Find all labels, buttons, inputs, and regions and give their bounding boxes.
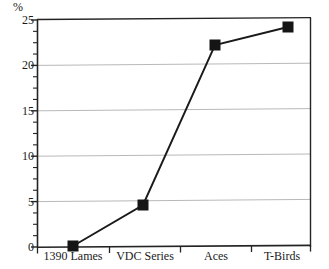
data-point-markers [68, 22, 294, 252]
gridlines [37, 63, 311, 201]
y-axis-minor-ticks [33, 31, 37, 235]
line-chart: % 25 20 15 10 5 0 [0, 0, 329, 269]
axis-frame [37, 18, 311, 248]
x-tick-label-1390-lames: 1390 Lames [44, 250, 103, 263]
x-tick-label-vdc-series: VDC Series [116, 250, 174, 263]
plot-area [0, 0, 329, 269]
data-series-line [73, 27, 288, 246]
x-tick-label-aces: Aces [204, 250, 228, 263]
data-point-marker [210, 40, 221, 51]
data-point-marker [138, 200, 149, 211]
data-point-marker [283, 22, 294, 33]
x-tick-label-t-birds: T-Birds [264, 250, 300, 263]
